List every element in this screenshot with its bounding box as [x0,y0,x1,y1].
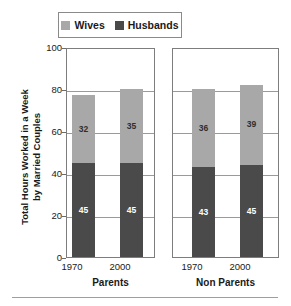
bar-segment-husbands: 45 [120,163,143,258]
legend-swatch-husbands-icon [115,21,124,30]
x-tick-label-nonparents-2000: 2000 [218,262,262,272]
bar-parents-1970[interactable]: 32 45 [72,95,95,257]
y-tick-mark-0 [62,258,66,259]
x-tick-label-parents-1970: 1970 [50,262,94,272]
x-tick-label-parents-2000: 2000 [98,262,142,272]
panel-parents: 32 45 35 45 [66,48,155,258]
panel-nonparents: 36 43 39 45 [172,48,279,258]
bar-nonparents-2000[interactable]: 39 45 [240,85,263,257]
bottom-divider [12,297,278,298]
legend-label-husbands: Husbands [128,20,179,31]
bar-value-husbands: 45 [127,206,136,215]
bar-value-husbands: 45 [247,207,256,216]
bar-segment-wives: 32 [72,95,95,162]
bar-segment-husbands: 43 [192,167,215,257]
legend-entry-wives: Wives [61,20,104,31]
bar-value-wives: 35 [127,122,136,131]
bar-value-wives: 36 [199,124,208,133]
bar-value-husbands: 43 [199,208,208,217]
y-tick-label-80: 80 [38,85,62,95]
bar-segment-wives: 39 [240,85,263,165]
bar-value-wives: 32 [79,125,88,134]
y-tick-label-60: 60 [38,127,62,137]
y-axis-tick-labels: 100 80 60 40 20 0 [38,0,62,306]
x-tick-label-nonparents-1970: 1970 [170,262,214,272]
y-tick-label-100: 100 [38,43,62,53]
y-tick-label-40: 40 [38,169,62,179]
legend-swatch-wives-icon [61,21,70,30]
bar-parents-2000[interactable]: 35 45 [120,89,143,257]
bar-value-husbands: 45 [79,206,88,215]
y-tick-label-20: 20 [38,211,62,221]
legend-entry-husbands: Husbands [115,20,179,31]
bar-segment-wives: 35 [120,89,143,163]
chart-figure: Wives Husbands Total Hours Worked in a W… [0,0,291,306]
bar-segment-husbands: 45 [72,163,95,258]
group-label-parents: Parents [66,277,155,288]
legend-label-wives: Wives [74,20,104,31]
bar-segment-husbands: 45 [240,165,263,257]
group-label-nonparents: Non Parents [172,277,279,288]
bar-value-wives: 39 [247,120,256,129]
bar-segment-wives: 36 [192,89,215,167]
chart-legend: Wives Husbands [58,12,182,38]
bar-nonparents-1970[interactable]: 36 43 [192,89,215,257]
